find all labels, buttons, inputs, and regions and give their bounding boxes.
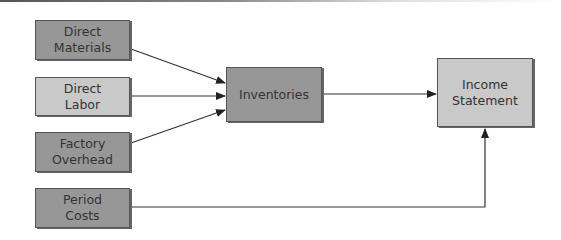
node-label: Inventories [239, 87, 309, 103]
arrow-period-to-income [131, 129, 485, 207]
cost-flow-diagram: Direct Materials Direct Labor Factory Ov… [0, 0, 561, 240]
node-income-statement: Income Statement [437, 58, 533, 127]
node-period-costs: Period Costs [35, 188, 130, 228]
node-direct-materials: Direct Materials [35, 20, 130, 60]
arrow-overhead-to-inventories [131, 110, 225, 143]
node-label: Income Statement [452, 77, 518, 109]
arrow-materials-to-inventories [131, 49, 225, 83]
node-label: Factory Overhead [52, 136, 113, 168]
node-label: Direct Materials [54, 24, 111, 56]
node-direct-labor: Direct Labor [35, 77, 130, 116]
node-factory-overhead: Factory Overhead [35, 132, 130, 172]
node-inventories: Inventories [226, 67, 322, 122]
node-label: Period Costs [63, 192, 102, 224]
node-label: Direct Labor [64, 81, 101, 113]
